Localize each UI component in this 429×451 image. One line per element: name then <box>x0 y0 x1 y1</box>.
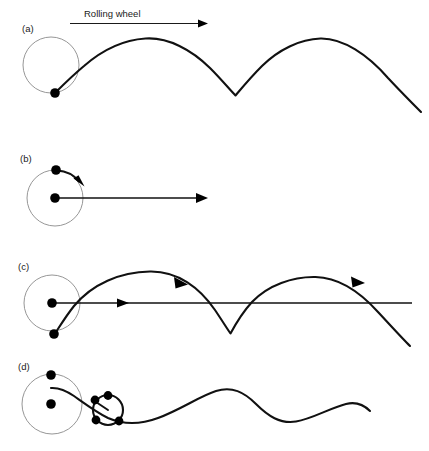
panel-c-axis-arrow-head <box>117 299 129 308</box>
panel-a-wheel-outline <box>23 37 79 93</box>
panel-c-label: (c) <box>18 261 29 272</box>
panel-b-center-point <box>50 193 60 203</box>
direction-arrow-head <box>198 20 208 28</box>
panel-b-label: (b) <box>20 153 32 164</box>
panel-d-interior-point <box>46 370 56 380</box>
panel-b-rotation-arrow <box>57 171 85 187</box>
panel-c: (c) <box>18 261 412 346</box>
panel-d: (d) <box>18 361 370 434</box>
small-wheel-dot-top <box>104 391 113 400</box>
panel-b-rim-point <box>51 165 61 175</box>
panel-b-translation-arrow <box>55 193 208 203</box>
panel-c-center-point <box>47 298 57 308</box>
small-wheel-dot-upper-left <box>91 396 100 405</box>
panel-b: (b) <box>20 153 208 226</box>
panel-c-tracing-point <box>49 329 59 339</box>
cycloid-figure: (a) Rolling wheel (b) <box>0 0 429 451</box>
panel-a-label: (a) <box>22 23 34 34</box>
panel-c-curve-arrow-2 <box>351 277 365 288</box>
panel-a-tracing-point <box>50 88 60 98</box>
panel-d-center-point <box>46 399 56 409</box>
small-wheel-dot-lower-right <box>115 417 124 426</box>
figure-canvas: (a) Rolling wheel (b) <box>0 0 429 451</box>
translation-arrow-head <box>196 193 208 203</box>
panel-a: (a) Rolling wheel <box>22 8 421 112</box>
rolling-wheel-direction-arrow <box>70 20 208 28</box>
rolling-wheel-annotation: Rolling wheel <box>84 8 141 19</box>
panel-d-label: (d) <box>18 361 30 372</box>
panel-a-cycloid-curve <box>56 38 422 112</box>
panel-d-small-wheel <box>91 391 124 425</box>
small-wheel-dot-lower-left <box>92 416 101 425</box>
